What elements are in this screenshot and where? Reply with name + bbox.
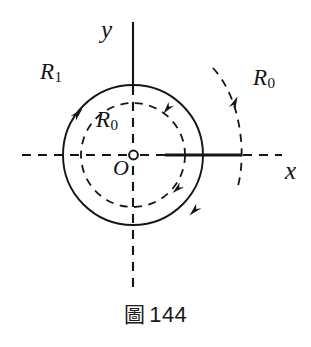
- outer-circle-label-subscript: 1: [54, 68, 62, 85]
- inner-circle-label-base: R: [96, 107, 110, 132]
- outer-circle-label-base: R: [40, 59, 54, 84]
- origin-marker: [129, 151, 138, 160]
- figure-caption: 圖144: [0, 298, 311, 328]
- figure-caption-number: 144: [149, 302, 187, 327]
- outer-circle-arrow-lower-right: [187, 203, 201, 218]
- figure-caption-word: 圖: [124, 303, 150, 327]
- outer-arc-label-R0: R0: [253, 66, 275, 91]
- y-axis-label: y: [101, 17, 112, 42]
- x-axis-label: x: [285, 158, 296, 183]
- outer-circle-label-R1: R1: [40, 60, 62, 85]
- phase-portrait-diagram: [0, 0, 311, 347]
- outer-arc-label-subscript: 0: [267, 74, 275, 91]
- figure-container: y x O R1 R0 R0 圖144: [0, 0, 311, 347]
- inner-circle-label-subscript: 0: [110, 116, 118, 133]
- outer-arc-label-base: R: [253, 65, 267, 90]
- inner-circle-label-R0: R0: [96, 108, 118, 133]
- origin-label: O: [113, 157, 129, 179]
- outer-dashed-arc-R0: [213, 68, 242, 186]
